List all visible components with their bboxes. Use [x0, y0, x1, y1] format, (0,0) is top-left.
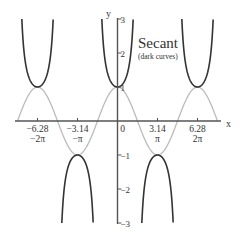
secant-branch [182, 19, 213, 87]
y-tick-label: −1 [121, 151, 131, 161]
y-tick-label: 2 [121, 49, 126, 59]
y-tick-label: 3 [121, 15, 126, 25]
x-tick-pi-label: −π [72, 134, 82, 144]
y-axis-label: y [106, 8, 111, 19]
chart-title: Secant [138, 35, 179, 51]
x-axis-label: x [226, 118, 231, 129]
y-tick-label: −2 [121, 185, 131, 195]
x-tick-label: −3.14 [67, 124, 89, 134]
y-tick-label: 1 [121, 83, 126, 93]
x-tick-pi-label: π [155, 134, 160, 144]
chart-subtitle: (dark curves) [138, 52, 178, 61]
secant-branch [142, 155, 173, 223]
secant-branch [22, 19, 53, 87]
ticks: −6.28−2π−3.14−π03.14π6.282π321−1−2−3 [27, 15, 207, 229]
x-tick-label: 0 [120, 124, 125, 134]
x-tick-label: 3.14 [149, 124, 166, 134]
axes [15, 18, 221, 224]
x-tick-pi-label: 2π [193, 134, 203, 144]
x-tick-label: 6.28 [189, 124, 206, 134]
secant-branch [62, 155, 93, 223]
x-tick-pi-label: −2π [30, 134, 45, 144]
y-tick-label: −3 [121, 219, 131, 229]
x-tick-label: −6.28 [27, 124, 49, 134]
secant-chart: −6.28−2π−3.14−π03.14π6.282π321−1−2−3 Sec… [0, 0, 243, 243]
